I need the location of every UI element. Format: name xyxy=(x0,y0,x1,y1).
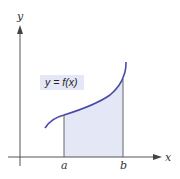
x-axis-arrow-icon xyxy=(153,154,162,160)
area-under-curve-diagram: y = f(x) y x a b xyxy=(0,0,180,179)
x-axis-label: x xyxy=(165,151,172,164)
curve-label: y = f(x) xyxy=(44,76,77,88)
bound-b-label: b xyxy=(120,159,127,172)
y-axis-arrow-icon xyxy=(17,25,23,34)
bound-a-label: a xyxy=(61,159,68,172)
y-axis-label: y xyxy=(16,10,24,23)
